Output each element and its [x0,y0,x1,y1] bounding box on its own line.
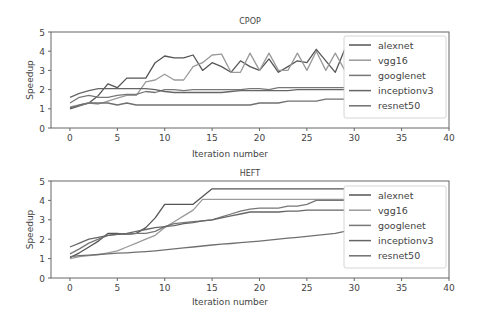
x-axis-label: Iteration number [192,149,268,159]
legend-label: inceptionv3 [378,85,434,96]
cpop-plot: CPOP0510152025303540012345Iteration numb… [25,17,455,159]
legend-label: googlenet [378,70,426,81]
legend: alexnetvgg16googlenetinceptionv3resnet50 [344,36,446,118]
legend-label: googlenet [378,220,426,231]
legend-label: resnet50 [378,100,420,111]
series-line-vgg16 [70,199,345,258]
chart-title: CPOP [239,17,261,26]
x-tick-label: 25 [301,283,312,293]
legend-label: vgg16 [378,55,408,66]
x-tick-label: 15 [206,283,217,293]
x-tick-label: 35 [396,283,407,293]
x-tick-label: 5 [114,283,120,293]
x-tick-label: 10 [159,133,171,143]
legend-label: vgg16 [378,205,408,216]
y-tick-label: 5 [39,177,45,187]
y-axis-label: Speedup [25,60,35,100]
y-tick-label: 1 [39,104,45,114]
y-tick-label: 4 [39,196,45,206]
x-tick-label: 0 [67,133,73,143]
x-axis-label: Iteration number [192,297,268,307]
legend-label: resnet50 [378,250,420,261]
x-tick-label: 30 [349,133,361,143]
y-tick-label: 2 [39,235,45,245]
heft-plot: HEFT0510152025303540012345Iteration numb… [25,169,455,307]
legend-label: alexnet [378,190,414,201]
x-tick-label: 15 [206,133,217,143]
legend-label: alexnet [378,40,414,51]
series-line-vgg16 [70,51,345,107]
y-tick-label: 3 [39,215,45,225]
series-line-inceptionv3 [70,210,345,247]
y-axis-label: Speedup [25,209,35,249]
y-tick-label: 0 [39,124,45,134]
figure: CPOP0510152025303540012345Iteration numb… [0,0,480,328]
legend-label: inceptionv3 [378,235,434,246]
x-tick-label: 35 [396,133,407,143]
x-tick-label: 0 [67,283,73,293]
y-tick-label: 3 [39,66,45,76]
x-tick-label: 10 [159,283,171,293]
y-tick-label: 5 [39,28,45,38]
x-tick-label: 25 [301,133,312,143]
x-tick-label: 40 [443,133,455,143]
y-tick-label: 4 [39,47,45,57]
x-tick-label: 40 [443,283,455,293]
y-tick-label: 1 [39,254,45,264]
y-tick-label: 2 [39,85,45,95]
x-tick-label: 20 [254,133,266,143]
x-tick-label: 20 [254,283,266,293]
y-tick-label: 0 [39,274,45,284]
x-tick-label: 5 [114,133,120,143]
legend: alexnetvgg16googlenetinceptionv3resnet50 [344,186,446,268]
chart-title: HEFT [240,169,261,178]
x-tick-label: 30 [349,283,361,293]
